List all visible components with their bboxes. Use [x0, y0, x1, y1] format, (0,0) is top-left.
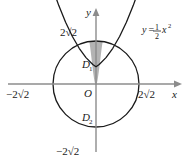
tick-label-x-left: −2√2: [6, 88, 29, 100]
tick-label-x-right: 2√2: [138, 88, 155, 100]
y-axis-arrow: [93, 8, 100, 16]
eq-y: y: [141, 24, 147, 35]
region-label-d1: D 1: [81, 58, 93, 73]
x-axis-arrow: [174, 81, 182, 88]
x-axis-label: x: [171, 88, 177, 100]
tick-y-bottom-text: −2√2: [56, 145, 79, 157]
tick-x-left-text: −2√2: [6, 88, 29, 100]
tick-x-right-text: 2√2: [138, 88, 155, 100]
eq-exponent: 2: [168, 22, 171, 29]
d2-subscript: 2: [89, 118, 93, 126]
eq-half-denominator: 2: [155, 32, 159, 41]
region-label-d2: D 2: [81, 111, 93, 126]
y-axis-label: y: [85, 6, 91, 18]
d1-subscript: 1: [89, 65, 93, 73]
eq-equals: =: [149, 24, 155, 35]
tick-y-top-text: 2√2: [60, 26, 77, 38]
tick-label-y-bottom: −2√2: [56, 145, 79, 157]
eq-x: x: [161, 24, 167, 35]
eq-half-numerator: 1: [155, 23, 159, 32]
origin-label: O: [84, 87, 92, 99]
parabola-equation-label: y = 1 2 x 2: [141, 22, 171, 41]
math-figure: 2√2 −2√2 −2√2 2√2 O x y D 1 D 2 y = 1 2 …: [0, 0, 192, 163]
tick-label-y-top: 2√2: [60, 26, 77, 38]
